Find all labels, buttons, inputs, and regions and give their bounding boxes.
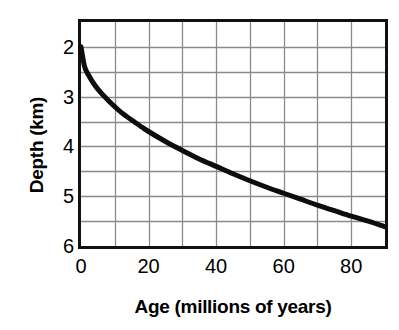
depth-age-curve [81, 47, 385, 227]
plot-area [0, 0, 399, 330]
horizontal-gridlines [81, 48, 385, 222]
chart-figure: Depth (km) Age (millions of years) 23456… [0, 0, 399, 330]
